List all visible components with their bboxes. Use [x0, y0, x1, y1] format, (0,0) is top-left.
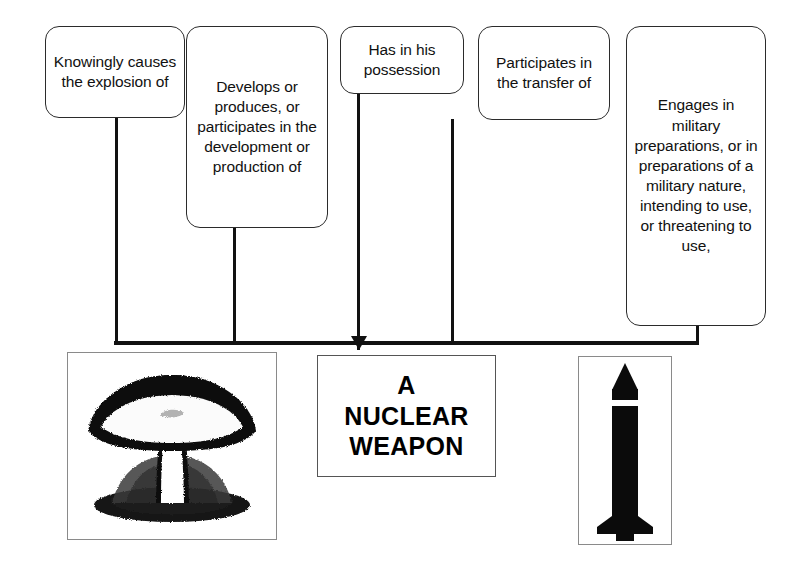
condition-label-3: Has in his possession [347, 40, 457, 80]
target-label-line-3: WEAPON [344, 431, 468, 462]
connector-line-3 [357, 92, 360, 350]
condition-box-engages-in-military-preparations[interactable]: Engages in military preparations, or in … [626, 26, 766, 326]
connector-line-4 [451, 119, 454, 344]
condition-label-5: Engages in military preparations, or in … [633, 95, 759, 256]
connector-line-1 [115, 116, 118, 344]
diagram-canvas: Knowingly causes the explosion of Develo… [0, 0, 806, 572]
condition-box-knowingly-causes-explosion[interactable]: Knowingly causes the explosion of [45, 26, 185, 118]
target-box-nuclear-weapon[interactable]: A NUCLEAR WEAPON [317, 355, 496, 477]
missile-image-frame [578, 356, 672, 545]
mushroom-cloud-image-frame [67, 352, 277, 540]
target-label-wrapper: A NUCLEAR WEAPON [344, 370, 468, 462]
condition-box-has-in-possession[interactable]: Has in his possession [340, 26, 464, 94]
condition-box-participates-in-transfer[interactable]: Participates in the transfer of [478, 26, 610, 120]
connector-line-2 [233, 225, 236, 344]
connector-bus-horizontal [114, 341, 699, 345]
target-label-line-2: NUCLEAR [344, 401, 468, 432]
arrow-head-to-target [351, 336, 367, 350]
condition-label-2: Develops or produces, or participates in… [193, 77, 321, 178]
mushroom-cloud-icon [68, 353, 276, 539]
condition-box-develops-or-produces[interactable]: Develops or produces, or participates in… [186, 26, 328, 228]
condition-label-4: Participates in the transfer of [485, 53, 603, 93]
missile-icon [579, 357, 671, 544]
target-label-line-1: A [344, 370, 468, 401]
condition-label-1: Knowingly causes the explosion of [52, 52, 178, 92]
